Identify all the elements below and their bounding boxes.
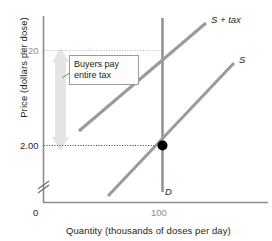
y-axis-title: Price (dollars per dose) [18, 0, 29, 143]
x-tick-label-0: 0 [33, 207, 38, 218]
y-tick-label-200: 2.00 [20, 140, 39, 151]
x-axis-title: Quantity (thousands of doses per day) [66, 225, 231, 236]
callout-line-1: Buyers pay [74, 59, 134, 70]
tax-incidence-arrow [52, 48, 69, 151]
supply-plus-tax-curve-label: S + tax [211, 14, 241, 25]
demand-curve-label: D [165, 186, 172, 197]
callout-line-2: entire tax [74, 70, 134, 81]
x-tick-label-100: 100 [151, 207, 167, 218]
supply-demand-tax-incidence-chart: Price (dollars per dose) Quantity (thous… [0, 0, 272, 241]
chart-canvas [0, 0, 272, 241]
y-tick-label-220: 2.20 [20, 45, 39, 56]
supply-curve-label: S [239, 54, 245, 65]
buyers-pay-entire-tax-callout: Buyers pay entire tax [69, 55, 139, 85]
equilibrium-marker [158, 141, 168, 151]
